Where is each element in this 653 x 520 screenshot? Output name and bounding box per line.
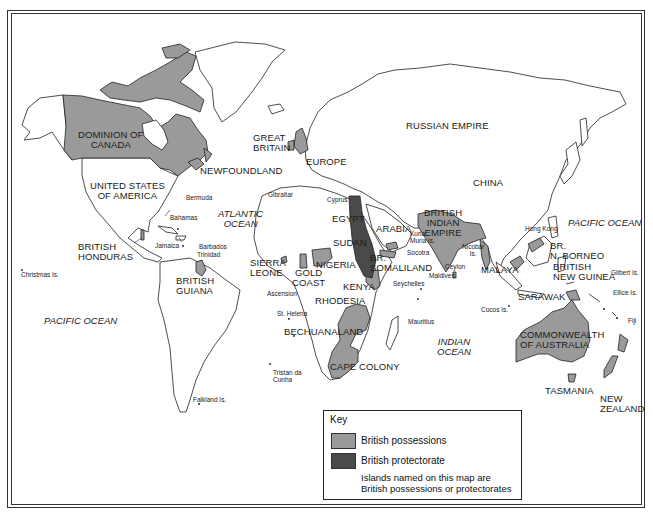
label-british-guiana: BRITISHGUIANA <box>176 276 214 296</box>
label-china: CHINA <box>473 178 503 188</box>
label-australia: COMMONWEALTHOF AUSTRALIA <box>520 330 604 350</box>
madagascar-island <box>386 316 398 350</box>
label-rhodesia: RHODESIA <box>315 296 365 306</box>
label-atlantic-ocean: ATLANTICOCEAN <box>218 209 263 229</box>
label-socotra: Socotra <box>407 250 429 257</box>
label-ascension: Ascension <box>267 291 297 298</box>
tasmania-possession <box>568 374 576 382</box>
label-fiji: Fiji <box>628 318 636 325</box>
label-christmas-is: Christmas Is. <box>21 272 59 279</box>
map-legend: Key British possessions British protecto… <box>323 410 522 500</box>
gold-coast-possession <box>300 254 307 268</box>
legend-label-protectorate: British protectorate <box>361 455 445 466</box>
label-arabia: ARABIA <box>376 224 411 234</box>
label-br-n-borneo: BR.N. BORNEO <box>550 241 604 261</box>
label-seychelles: Seychelles <box>393 281 424 288</box>
legend-note: Islands named on this map are British po… <box>361 473 511 494</box>
label-cocos-is: Cocos Is. <box>481 307 508 314</box>
hispaniola-island <box>176 236 186 240</box>
label-newfoundland: NEWFOUNDLAND <box>200 166 282 176</box>
great-britain-possession <box>294 128 308 154</box>
legend-swatch-possessions <box>331 433 356 449</box>
label-ceylon: Ceylon <box>445 264 465 271</box>
label-nigeria: NIGERIA <box>316 260 356 270</box>
label-trinidad: Trinidad <box>197 252 220 259</box>
label-kuria-muria-is: KuriaMuria Is. <box>410 231 435 245</box>
label-ellice-is: Ellice Is. <box>613 290 637 297</box>
label-mauritius: Mauritius <box>408 319 434 326</box>
label-jamaica: Jamaica <box>155 243 179 250</box>
label-canada: DOMINION OFCANADA <box>78 130 144 150</box>
label-maldives: Maldives <box>429 273 455 280</box>
label-bahamas: Bahamas <box>170 215 197 222</box>
label-usa: UNITED STATESOF AMERICA <box>90 181 165 201</box>
label-sarawak: SARAWAK <box>518 292 566 302</box>
label-new-zealand: NEWZEALAND <box>600 394 645 414</box>
label-gibraltar: Gibraltar <box>268 192 293 199</box>
label-pacific-ocean-west: PACIFIC OCEAN <box>44 316 117 326</box>
label-kenya: KENYA <box>343 282 375 292</box>
label-malaya: MALAYA <box>481 265 519 275</box>
label-hong-kong: Hong Kong <box>525 226 558 233</box>
legend-swatch-protectorate <box>331 453 356 469</box>
label-cyprus: Cyprus <box>327 197 348 204</box>
label-gilbert-is: Gilbert Is. <box>611 270 639 277</box>
label-great-britain: GREATBRITAIN <box>253 133 290 153</box>
label-bermuda: Bermuda <box>186 195 212 202</box>
label-british-honduras: BRITISHHONDURAS <box>78 242 133 262</box>
new-zealand-south-possession <box>604 356 618 378</box>
label-sierra-leone: SIERRALEONE <box>250 258 286 278</box>
cuba-island <box>158 226 178 234</box>
label-barbados: Barbados <box>199 244 227 251</box>
label-europe: EUROPE <box>306 157 347 167</box>
label-bechuanaland: BECHUANALAND <box>284 327 363 337</box>
british-new-guinea-possession <box>566 290 580 300</box>
label-cape-colony: CAPE COLONY <box>330 362 400 372</box>
iceland-island <box>268 104 284 114</box>
label-nicobar-is: NicobarIs. <box>462 244 484 258</box>
label-british-new-guinea: BRITISHNEW GUINEA <box>553 262 615 282</box>
legend-title: Key <box>330 414 347 425</box>
label-russian-empire: RUSSIAN EMPIRE <box>406 121 489 131</box>
label-falkland-is: Falkland Is. <box>193 397 226 404</box>
label-pacific-ocean-east: PACIFIC OCEAN <box>568 218 641 228</box>
label-tasmania: TASMANIA <box>545 386 594 396</box>
label-egypt: EGYPT <box>332 214 365 224</box>
label-indian-ocean: INDIANOCEAN <box>437 337 471 357</box>
legend-label-possessions: British possessions <box>361 435 447 446</box>
label-st-helena: St. Helena <box>277 311 307 318</box>
label-gold-coast: GOLDCOAST <box>292 268 325 288</box>
label-tristan-da-cunha: Tristan daCunha <box>273 370 302 384</box>
new-zealand-north-possession <box>618 334 628 352</box>
label-sudan: SUDAN <box>333 238 367 248</box>
